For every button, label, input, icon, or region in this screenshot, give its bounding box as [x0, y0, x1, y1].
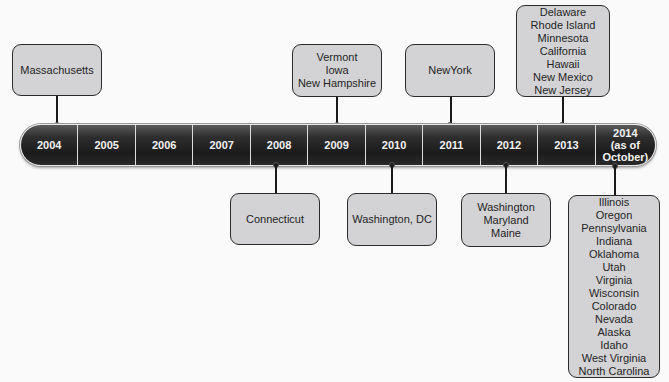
state-label: Minnesota: [538, 32, 589, 45]
year-2013: 2013: [538, 125, 595, 165]
state-label: Maryland: [483, 214, 528, 227]
timeline-bar: 2004 2005 2006 2007 2008 2009 2010 2011 …: [20, 124, 656, 166]
state-label: New Mexico: [533, 71, 593, 84]
state-label: Washington, DC: [352, 213, 432, 226]
callout-2011: NewYork: [405, 44, 495, 97]
callout-2004: Massachusetts: [12, 44, 102, 96]
state-label: Virginia: [596, 274, 633, 287]
state-label: New Hampshire: [298, 77, 376, 90]
year-2009: 2009: [308, 125, 365, 165]
callout-2010: Washington, DC: [347, 193, 437, 246]
year-2005: 2005: [78, 125, 135, 165]
state-label: New Jersey: [534, 84, 591, 97]
connector-2012: [505, 164, 507, 193]
state-label: California: [540, 45, 586, 58]
callout-2014: Illinois Oregon Pennsylvania Indiana Okl…: [568, 195, 660, 378]
callout-2009: Vermont Iowa New Hampshire: [292, 44, 382, 97]
year-2004: 2004: [21, 125, 78, 165]
callout-2012: Washington Maryland Maine: [461, 193, 551, 247]
connector-2008: [275, 164, 277, 193]
connector-2010: [391, 164, 393, 193]
state-label: Nevada: [595, 313, 633, 326]
connector-2014: [614, 165, 616, 195]
state-label: Connecticut: [246, 213, 304, 226]
state-label: NewYork: [428, 64, 472, 77]
state-label: Hawaii: [546, 58, 579, 71]
state-label: Oklahoma: [589, 248, 639, 261]
state-label: Colorado: [592, 300, 637, 313]
state-label: Utah: [602, 261, 625, 274]
state-label: West Virginia: [582, 352, 646, 365]
state-label: Idaho: [600, 339, 628, 352]
state-label: Delaware: [540, 6, 586, 19]
callout-2008: Connecticut: [230, 193, 320, 245]
year-2014: 2014 (as of October): [596, 125, 655, 165]
state-label: North Carolina: [579, 365, 650, 378]
state-label: Indiana: [596, 235, 632, 248]
year-2007: 2007: [193, 125, 250, 165]
state-label: Wisconsin: [589, 287, 639, 300]
state-label: Massachusetts: [20, 64, 93, 77]
state-label: Illinois: [599, 196, 630, 209]
year-2010: 2010: [366, 125, 423, 165]
state-label: Maine: [491, 227, 521, 240]
state-label: Vermont: [317, 51, 358, 64]
year-2011: 2011: [423, 125, 480, 165]
state-label: Rhode Island: [531, 19, 596, 32]
year-2006: 2006: [136, 125, 193, 165]
callout-2013: Delaware Rhode Island Minnesota Californ…: [516, 5, 610, 97]
state-label: Oregon: [596, 209, 633, 222]
year-2008: 2008: [251, 125, 308, 165]
state-label: Washington: [477, 201, 535, 214]
state-label: Pennsylvania: [581, 222, 646, 235]
state-label: Alaska: [597, 326, 630, 339]
year-2012: 2012: [481, 125, 538, 165]
state-label: Iowa: [325, 64, 348, 77]
